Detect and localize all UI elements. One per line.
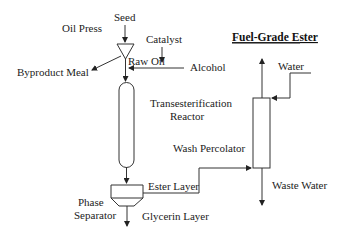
label-percolator: Wash Percolator [173, 142, 245, 154]
label-glycerin: Glycerin Layer [142, 210, 209, 222]
byproduct-arrow [92, 56, 121, 70]
wash-percolator [253, 98, 270, 168]
phase-separator [111, 185, 143, 206]
water-line [272, 73, 311, 98]
diagram-title: Fuel-Grade Ester [232, 31, 318, 43]
label-separator-line1: Phase [78, 196, 104, 208]
label-reactor-line2: Reactor [170, 110, 205, 122]
label-ester-layer: Ester Layer [148, 180, 199, 192]
reactor-column [119, 83, 134, 168]
label-raw-oil: Raw Oil [128, 55, 165, 67]
label-alcohol: Alcohol [190, 61, 225, 73]
label-reactor-line1: Transesterification [150, 97, 233, 109]
label-separator-line2: Separator [74, 209, 116, 221]
process-flow-diagram: Fuel-Grade Ester Seed Oil Press Byproduc… [0, 0, 342, 236]
label-seed: Seed [114, 11, 136, 23]
label-byproduct: Byproduct Meal [17, 66, 89, 78]
label-catalyst: Catalyst [146, 33, 182, 45]
label-water: Water [278, 60, 304, 72]
label-waste-water: Waste Water [272, 179, 327, 191]
label-oil-press: Oil Press [62, 22, 102, 34]
